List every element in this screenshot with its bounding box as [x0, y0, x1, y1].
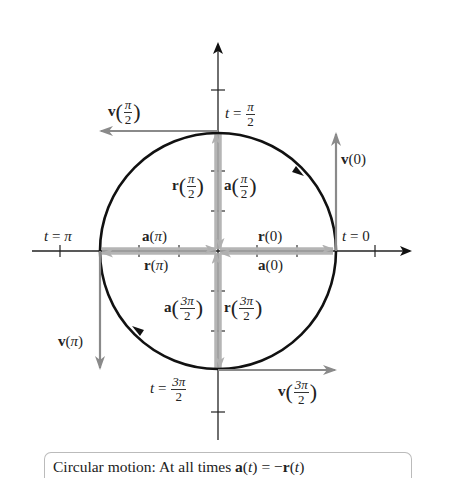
- label-a-pi-over-2: a(π2): [224, 172, 257, 200]
- label-t-0: t = 0: [342, 229, 370, 244]
- label-t-pi: t = π: [44, 229, 72, 244]
- label-v-pi: v(π): [58, 334, 83, 349]
- label-v-0: v(0): [341, 152, 366, 167]
- caption-prefix: Circular motion: At all times: [53, 458, 235, 475]
- label-v-3pi-over-2: v(3π2): [278, 378, 317, 406]
- caption-box: Circular motion: At all times a(t) = −r(…: [44, 452, 412, 478]
- label-r-pi: r(π): [144, 258, 168, 273]
- label-a-3pi-over-2: a(3π2): [164, 294, 203, 322]
- label-r-3pi-over-2: r(3π2): [224, 294, 262, 322]
- label-a-0: a(0): [258, 258, 283, 273]
- label-a-pi: a(π): [142, 229, 167, 244]
- label-t-pi-over-2: t = π2: [225, 100, 256, 128]
- label-t-3pi-over-2: t = 3π2: [150, 375, 187, 403]
- label-r-pi-over-2: r(π2): [172, 172, 204, 200]
- label-r-0: r(0): [258, 229, 282, 244]
- label-v-pi-over-2: v(π2): [108, 98, 141, 126]
